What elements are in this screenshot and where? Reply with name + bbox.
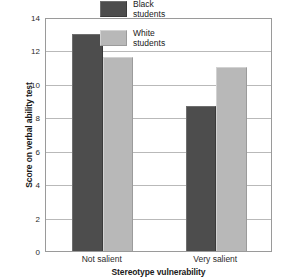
y-axis-tick-label: 4 <box>18 181 40 190</box>
legend-label-black-students-line2: students <box>133 10 165 20</box>
legend-label-black-students: Black students <box>133 0 165 19</box>
x-axis-tick-label: Very salient <box>193 254 237 264</box>
legend-swatch-white-students <box>100 30 127 46</box>
y-axis-tick-label: 6 <box>18 147 40 156</box>
plot-area <box>45 18 272 252</box>
y-axis-tick-label: 8 <box>18 114 40 123</box>
y-axis-tick-labels: 02468101214 <box>18 0 40 280</box>
y-axis-tick-label: 12 <box>18 47 40 56</box>
x-axis-title: Stereotype vulnerability <box>45 267 272 277</box>
legend-label-white-students: White students <box>133 29 165 48</box>
legend-label-white-students-line2: students <box>133 39 165 49</box>
x-axis-tick-label: Not salient <box>82 254 122 264</box>
bar-black-students-not-salient <box>72 34 103 251</box>
y-axis-tick-label: 0 <box>18 248 40 257</box>
legend-item-white-students: White students <box>100 29 165 48</box>
legend-item-black-students: Black students <box>100 0 165 19</box>
bar-white-students-very-salient <box>216 67 247 251</box>
bar-white-students-not-salient <box>103 57 134 251</box>
legend-label-white-students-line1: White <box>133 28 155 38</box>
bar-black-students-very-salient <box>186 106 217 251</box>
y-axis-tick-label: 10 <box>18 80 40 89</box>
legend-swatch-black-students <box>100 1 127 17</box>
y-axis-tick-label: 14 <box>18 14 40 23</box>
legend-label-black-students-line1: Black <box>133 0 154 9</box>
y-axis-tick-label: 2 <box>18 214 40 223</box>
x-axis-tick-labels: Not salientVery salient <box>45 254 272 268</box>
bar-chart: Score on verbal ability test 02468101214… <box>0 0 281 280</box>
